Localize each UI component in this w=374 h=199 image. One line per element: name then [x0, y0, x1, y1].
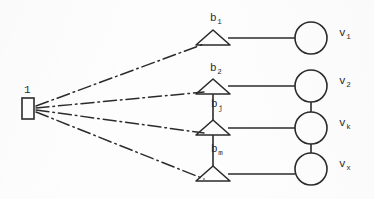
branch-node-bm-label: bm	[211, 144, 223, 155]
branch-node-bm[interactable]	[196, 166, 230, 181]
terminal-node-vk[interactable]	[295, 112, 327, 144]
root-node-label: 1	[24, 85, 31, 96]
branch-to-terminal-group	[228, 38, 295, 174]
terminal-node-v2-label: v2	[339, 76, 351, 87]
terminal-node-v2[interactable]	[295, 70, 327, 102]
diagram-canvas	[0, 0, 374, 199]
branch-node-b1[interactable]	[196, 30, 230, 45]
figure-diagram: 1 b1 b2 bj bm v1 v2 vk vx	[0, 0, 374, 199]
edge-root-to-b2[interactable]	[36, 92, 204, 108]
branch-node-b2-label: b2	[210, 63, 222, 74]
branch-node-b1-label: b1	[210, 13, 222, 24]
terminal-node-v1-label: v1	[339, 28, 351, 39]
root-edges-group	[36, 44, 204, 179]
terminal-node-v1[interactable]	[295, 22, 327, 54]
branch-node-bj-label: bj	[211, 99, 223, 110]
root-node-rectangle[interactable]	[22, 98, 34, 119]
terminal-node-vx-label: vx	[339, 159, 351, 170]
terminal-node-vx[interactable]	[295, 153, 327, 185]
terminal-node-vk-label: vk	[339, 118, 351, 129]
edge-root-to-b1[interactable]	[36, 44, 204, 106]
